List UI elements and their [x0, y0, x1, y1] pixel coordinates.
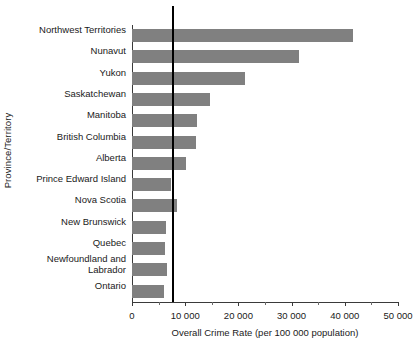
- bar-category-label: British Columbia: [0, 132, 126, 143]
- bar-category-label: Alberta: [0, 153, 126, 164]
- bar: [132, 178, 171, 191]
- x-tick-label: 10 000: [171, 310, 200, 321]
- x-tick-major: [238, 302, 239, 306]
- bar: [132, 263, 167, 276]
- bar: [132, 72, 245, 85]
- bar-category-label: Ontario: [0, 281, 126, 292]
- x-axis-title: Overall Crime Rate (per 100 000 populati…: [132, 327, 398, 338]
- x-tick-label: 20 000: [224, 310, 253, 321]
- bar-category-label: Nova Scotia: [0, 195, 126, 206]
- x-tick-major: [345, 302, 346, 306]
- bar-category-label: Prince Edward Island: [0, 174, 126, 185]
- x-tick-label: 0: [129, 310, 134, 321]
- bar: [132, 285, 164, 298]
- bar: [132, 50, 299, 63]
- bar-category-label: New Brunswick: [0, 217, 126, 228]
- x-tick-major: [185, 302, 186, 306]
- x-tick-minor: [159, 302, 160, 305]
- bar: [132, 199, 177, 212]
- x-tick-label: 40 000: [330, 310, 359, 321]
- x-tick-minor: [265, 302, 266, 305]
- crime-rate-bar-chart: Province/Territory Northwest Territories…: [0, 0, 419, 347]
- x-tick-major: [132, 302, 133, 306]
- bar: [132, 221, 166, 234]
- bar-category-label: Northwest Territories: [0, 25, 126, 36]
- bar: [132, 157, 186, 170]
- bar-category-label: Saskatchewan: [0, 89, 126, 100]
- x-tick-label: 30 000: [277, 310, 306, 321]
- x-tick-major: [292, 302, 293, 306]
- national-reference-line: [172, 6, 174, 302]
- x-tick-label: 50 000: [383, 310, 412, 321]
- bar: [132, 136, 196, 149]
- bar-category-label: Manitoba: [0, 110, 126, 121]
- bar-category-label: Yukon: [0, 68, 126, 79]
- bar: [132, 29, 353, 42]
- plot-area: Northwest TerritoriesNunavutYukonSaskatc…: [132, 25, 398, 302]
- x-tick-major: [398, 302, 399, 306]
- bar-category-label: Quebec: [0, 238, 126, 249]
- x-tick-minor: [318, 302, 319, 305]
- x-tick-minor: [371, 302, 372, 305]
- bar: [132, 242, 165, 255]
- bar: [132, 114, 197, 127]
- bar-category-label: Newfoundland and Labrador: [0, 254, 126, 275]
- x-tick-minor: [212, 302, 213, 305]
- bar-category-label: Nunavut: [0, 46, 126, 57]
